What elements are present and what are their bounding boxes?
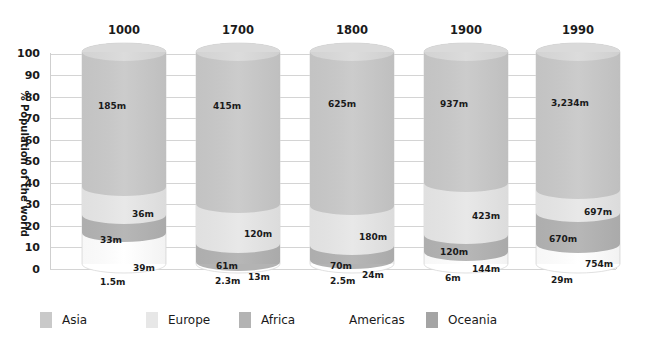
column-year-1800: 1800	[312, 23, 392, 37]
value-oceania: 2.3m	[215, 276, 240, 286]
value-oceania: 29m	[551, 275, 573, 285]
value-africa: 670m	[549, 234, 577, 244]
legend-swatch	[239, 312, 251, 328]
legend-label: Oceania	[448, 313, 497, 327]
value-americas: 144m	[472, 264, 500, 274]
value-africa: 70m	[330, 261, 352, 271]
legend-label: Asia	[62, 313, 87, 327]
legend-label: Europe	[168, 313, 210, 327]
value-europe: 36m	[132, 209, 154, 219]
legend-item-americas: Americas	[327, 312, 405, 328]
value-europe: 180m	[359, 232, 387, 242]
cylinder-1000	[82, 43, 166, 273]
legend-item-africa: Africa	[239, 312, 295, 328]
value-asia: 937m	[440, 99, 468, 109]
value-europe: 423m	[472, 211, 500, 221]
value-americas: 24m	[362, 270, 384, 280]
legend-item-europe: Europe	[146, 312, 210, 328]
value-africa: 120m	[440, 247, 468, 257]
column-year-1900: 1900	[426, 23, 506, 37]
legend-item-asia: Asia	[40, 312, 87, 328]
cylinder-1900	[424, 43, 508, 273]
value-asia: 415m	[213, 101, 241, 111]
legend-swatch	[426, 312, 438, 328]
value-africa: 61m	[216, 261, 238, 271]
value-oceania: 1.5m	[100, 277, 125, 287]
value-asia: 185m	[98, 101, 126, 111]
legend-label: Africa	[261, 313, 295, 327]
legend-swatch	[40, 312, 52, 328]
cylinder-columns	[0, 0, 656, 300]
column-year-1000: 1000	[84, 23, 164, 37]
legend-swatch	[146, 312, 158, 328]
value-americas: 754m	[585, 259, 613, 269]
legend-label: Americas	[349, 313, 405, 327]
value-europe: 697m	[584, 207, 612, 217]
column-year-1990: 1990	[538, 23, 618, 37]
column-year-1700: 1700	[198, 23, 278, 37]
legend-swatch	[327, 312, 339, 328]
value-asia: 625m	[328, 99, 356, 109]
value-oceania: 2.5m	[330, 276, 355, 286]
value-oceania: 6m	[445, 273, 461, 283]
value-europe: 120m	[244, 229, 272, 239]
value-asia: 3,234m	[551, 98, 589, 108]
value-americas: 13m	[248, 272, 270, 282]
legend-item-oceania: Oceania	[426, 312, 497, 328]
value-africa: 33m	[100, 235, 122, 245]
value-americas: 39m	[133, 263, 155, 273]
